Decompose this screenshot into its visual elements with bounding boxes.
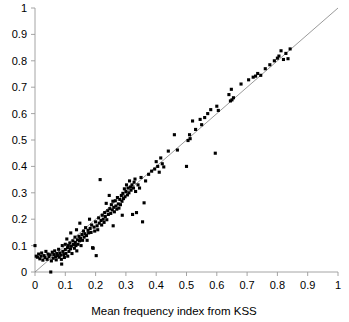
data-point — [100, 223, 103, 226]
data-point — [176, 148, 179, 151]
data-point — [96, 224, 99, 227]
data-point — [120, 200, 123, 203]
data-point — [108, 194, 111, 197]
x-tick-label: 0.2 — [88, 279, 103, 291]
data-point — [76, 243, 79, 246]
data-point — [254, 75, 257, 78]
data-point — [74, 241, 77, 244]
data-point — [217, 109, 220, 112]
x-tick-label: 0.6 — [209, 279, 224, 291]
x-tick-label: 0.7 — [239, 279, 254, 291]
data-point — [132, 187, 135, 190]
y-tick-label: 0.5 — [12, 134, 27, 146]
data-point — [67, 250, 70, 253]
data-point — [99, 178, 102, 181]
data-point — [104, 215, 107, 218]
y-tick-label: 0.7 — [12, 81, 27, 93]
data-point — [46, 258, 49, 261]
data-point — [113, 210, 116, 213]
data-point — [69, 247, 72, 250]
data-point — [64, 252, 67, 255]
x-tick-label: 0.8 — [270, 279, 285, 291]
data-point — [119, 203, 122, 206]
y-axis-tick-labels: 00.10.20.30.40.50.60.70.80.91 — [12, 2, 27, 278]
data-point — [69, 231, 72, 234]
data-point — [75, 249, 78, 252]
data-point — [81, 239, 84, 242]
data-point — [264, 67, 267, 70]
data-point — [112, 224, 115, 227]
data-point — [143, 201, 146, 204]
data-point — [63, 256, 66, 259]
data-point — [82, 230, 85, 233]
data-point — [97, 216, 100, 219]
data-point — [203, 116, 206, 119]
data-point — [188, 133, 191, 136]
data-point — [50, 259, 53, 262]
x-tick-label: 0.9 — [300, 279, 315, 291]
data-point — [173, 133, 176, 136]
data-point — [206, 112, 209, 115]
data-point — [155, 160, 158, 163]
data-point — [60, 263, 63, 266]
data-point — [103, 211, 106, 214]
data-point — [85, 234, 88, 237]
data-point — [105, 218, 108, 221]
data-point — [73, 247, 76, 250]
data-point — [92, 247, 95, 250]
data-point — [185, 165, 188, 168]
data-point — [194, 128, 197, 131]
data-point — [133, 178, 136, 181]
data-point — [86, 239, 89, 242]
data-point — [136, 183, 139, 186]
data-point — [239, 82, 242, 85]
data-point — [158, 171, 161, 174]
data-point — [130, 183, 133, 186]
data-point — [124, 190, 127, 193]
data-point — [284, 52, 287, 55]
data-point — [114, 199, 117, 202]
data-point — [94, 220, 97, 223]
data-point — [109, 212, 112, 215]
data-point — [96, 228, 99, 231]
y-tick-label: 0.6 — [12, 108, 27, 120]
data-point — [117, 207, 120, 210]
data-point — [141, 220, 144, 223]
x-tick-label: 0.3 — [118, 279, 133, 291]
data-point — [61, 244, 64, 247]
data-point — [73, 236, 76, 239]
y-tick-label: 0 — [21, 266, 27, 278]
data-point — [135, 211, 138, 214]
data-point — [44, 250, 47, 253]
data-point — [70, 252, 73, 255]
data-point — [41, 259, 44, 262]
data-point — [256, 72, 259, 75]
data-point — [209, 108, 212, 111]
data-point — [84, 226, 87, 229]
x-tick-label: 0.4 — [149, 279, 164, 291]
y-tick-label: 0.3 — [12, 187, 27, 199]
data-point — [60, 258, 63, 261]
data-point — [121, 214, 124, 217]
data-point — [277, 55, 280, 58]
data-point — [200, 123, 203, 126]
y-tick-label: 0.2 — [12, 213, 27, 225]
y-tick-label: 0.8 — [12, 55, 27, 67]
data-point — [214, 152, 217, 155]
data-point — [53, 249, 56, 252]
data-point — [49, 253, 52, 256]
data-point — [153, 167, 156, 170]
data-point — [156, 165, 159, 168]
data-point — [128, 179, 131, 182]
data-point — [230, 88, 233, 91]
scatter-plot-figure: 00.10.20.30.40.50.60.70.80.91 00.10.20.3… — [0, 0, 349, 322]
data-point — [57, 248, 60, 251]
data-point — [286, 57, 289, 60]
y-tick-label: 0.1 — [12, 240, 27, 252]
data-point — [282, 58, 285, 61]
data-point — [78, 239, 81, 242]
x-tick-label: 0.5 — [179, 279, 194, 291]
data-point — [159, 156, 162, 159]
data-point — [80, 233, 83, 236]
data-point — [161, 162, 164, 165]
